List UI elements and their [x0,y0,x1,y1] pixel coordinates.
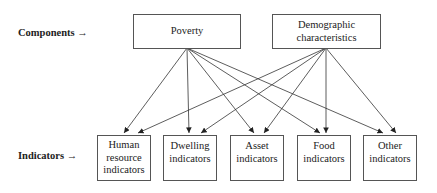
edge-poverty-human [124,48,187,133]
indicator-dwelling: Dwelling indicators [163,135,217,181]
indicator-other: Other indicators [363,135,417,181]
edge-demographic-asset [264,48,326,133]
edge-demographic-human [138,48,326,133]
component-poverty: Poverty [133,14,241,49]
edge-poverty-asset [187,48,254,133]
indicators-row-label: Indicators → [18,150,77,161]
indicator-human-resource: Human resource indicators [97,135,151,181]
component-demographic-characteristics: Demographic characteristics [272,14,381,49]
edge-demographic-other [326,48,396,133]
indicator-food: Food indicators [297,135,351,181]
edge-demographic-dwelling [201,48,326,133]
edge-poverty-food [187,48,320,133]
edge-poverty-dwelling [187,48,189,133]
edge-poverty-other [187,48,383,133]
components-row-label: Components → [18,27,88,38]
indicator-asset: Asset indicators [230,135,284,181]
